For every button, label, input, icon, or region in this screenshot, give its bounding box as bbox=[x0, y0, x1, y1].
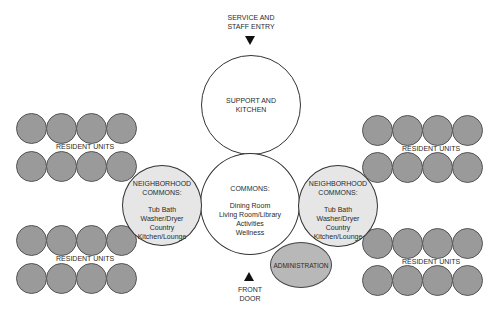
resident-unit bbox=[76, 225, 107, 256]
resident-units-label: RESIDENT UNITS bbox=[56, 255, 114, 263]
resident-unit bbox=[16, 113, 47, 144]
neighborhood-left-item: Kitchen/Lounge bbox=[123, 232, 201, 241]
resident-unit bbox=[422, 115, 453, 146]
front-door-label: FRONT DOOR bbox=[220, 286, 280, 303]
resident-unit bbox=[362, 115, 393, 146]
service-entry-label: SERVICE AND STAFF ENTRY bbox=[206, 14, 296, 31]
neighborhood-left-item: Tub Bath bbox=[123, 205, 201, 214]
service-entry-line2: STAFF ENTRY bbox=[206, 23, 296, 32]
neighborhood-right-title2: COMMONS: bbox=[299, 188, 377, 197]
neighborhood-right-title1: NEIGHBORHOOD bbox=[299, 179, 377, 188]
neighborhood-left-title2: COMMONS: bbox=[123, 188, 201, 197]
support-line2: KITCHEN bbox=[202, 105, 300, 114]
resident-unit bbox=[76, 151, 107, 182]
commons-title: COMMONS: bbox=[201, 184, 299, 193]
front-door-arrow-icon bbox=[244, 272, 254, 281]
neighborhood-right-item: Washer/Dryer bbox=[299, 214, 377, 223]
resident-cluster-top-left: RESIDENT UNITS bbox=[16, 113, 138, 183]
neighborhood-commons-right: NEIGHBORHOOD COMMONS: Tub Bath Washer/Dr… bbox=[298, 165, 378, 247]
resident-unit bbox=[16, 263, 47, 294]
resident-unit bbox=[422, 228, 453, 259]
resident-unit bbox=[452, 115, 483, 146]
front-door-line1: FRONT bbox=[220, 286, 280, 295]
resident-units-label: RESIDENT UNITS bbox=[402, 258, 460, 266]
neighborhood-right-item: Tub Bath bbox=[299, 205, 377, 214]
resident-cluster-bottom-right: RESIDENT UNITS bbox=[362, 228, 484, 298]
resident-unit bbox=[46, 151, 77, 182]
commons-circle: COMMONS: Dining Room Living Room/Library… bbox=[200, 153, 300, 255]
service-entry-arrow-icon bbox=[245, 36, 255, 45]
resident-unit bbox=[16, 151, 47, 182]
commons-item: Activities bbox=[201, 219, 299, 228]
resident-unit bbox=[452, 265, 483, 296]
resident-unit bbox=[392, 115, 423, 146]
administration-label: ADMINISTRATION bbox=[271, 261, 331, 270]
resident-unit bbox=[46, 113, 77, 144]
administration-ellipse: ADMINISTRATION bbox=[270, 242, 332, 288]
neighborhood-right-item: Country bbox=[299, 223, 377, 232]
resident-unit bbox=[46, 263, 77, 294]
front-door-line2: DOOR bbox=[220, 295, 280, 304]
support-kitchen-circle: SUPPORT AND KITCHEN bbox=[201, 55, 301, 155]
resident-unit bbox=[16, 225, 47, 256]
resident-cluster-bottom-left: RESIDENT UNITS bbox=[16, 225, 138, 295]
resident-unit bbox=[76, 263, 107, 294]
resident-unit bbox=[392, 152, 423, 183]
resident-unit bbox=[392, 228, 423, 259]
resident-unit bbox=[452, 152, 483, 183]
neighborhood-left-title1: NEIGHBORHOOD bbox=[123, 179, 201, 188]
resident-unit bbox=[392, 265, 423, 296]
commons-item: Wellness bbox=[201, 228, 299, 237]
resident-unit bbox=[452, 228, 483, 259]
service-entry-line1: SERVICE AND bbox=[206, 14, 296, 23]
neighborhood-commons-left: NEIGHBORHOOD COMMONS: Tub Bath Washer/Dr… bbox=[122, 165, 202, 246]
resident-unit bbox=[422, 152, 453, 183]
commons-item: Dining Room bbox=[201, 201, 299, 210]
resident-unit bbox=[422, 265, 453, 296]
resident-unit bbox=[46, 225, 77, 256]
neighborhood-left-item: Washer/Dryer bbox=[123, 214, 201, 223]
resident-cluster-top-right: RESIDENT UNITS bbox=[362, 115, 484, 185]
neighborhood-right-item: Kitchen/Lounge bbox=[299, 232, 377, 241]
neighborhood-left-item: Country bbox=[123, 223, 201, 232]
resident-unit bbox=[106, 113, 137, 144]
support-line1: SUPPORT AND bbox=[202, 96, 300, 105]
resident-unit bbox=[362, 265, 393, 296]
resident-unit bbox=[76, 113, 107, 144]
commons-item: Living Room/Library bbox=[201, 210, 299, 219]
resident-units-label: RESIDENT UNITS bbox=[402, 145, 460, 153]
resident-units-label: RESIDENT UNITS bbox=[56, 143, 114, 151]
resident-unit bbox=[106, 263, 137, 294]
